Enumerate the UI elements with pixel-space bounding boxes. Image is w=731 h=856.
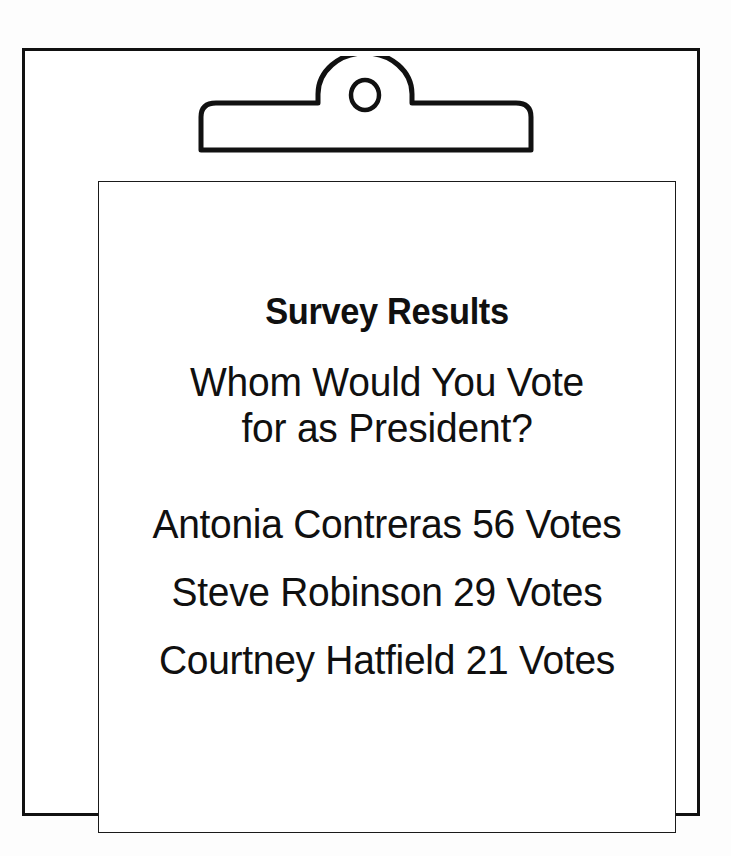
result-vote-count: 29 (453, 569, 496, 615)
clipboard-board: Survey Results Whom Would You Vote for a… (22, 48, 700, 816)
survey-question: Whom Would You Vote for as President? (113, 360, 660, 452)
result-vote-unit: Votes (525, 501, 621, 547)
page-title: Survey Results (119, 293, 655, 330)
result-candidate-name: Courtney Hatfield (159, 637, 455, 683)
result-candidate-name: Antonia Contreras (152, 501, 461, 547)
results-list: Antonia Contreras 56 Votes Steve Robinso… (99, 504, 675, 681)
result-row: Steve Robinson 29 Votes (113, 572, 660, 613)
result-vote-unit: Votes (506, 569, 602, 615)
result-vote-count: 21 (466, 637, 509, 683)
survey-question-line-1: Whom Would You Vote (113, 360, 660, 406)
result-row: Courtney Hatfield 21 Votes (113, 640, 660, 681)
paper-sheet: Survey Results Whom Would You Vote for a… (98, 181, 676, 833)
result-vote-unit: Votes (519, 637, 615, 683)
result-row: Antonia Contreras 56 Votes (113, 504, 660, 545)
result-vote-count: 56 (472, 501, 515, 547)
result-candidate-name: Steve Robinson (172, 569, 443, 615)
survey-question-line-2: for as President? (113, 406, 660, 452)
scan-surface: Survey Results Whom Would You Vote for a… (0, 0, 731, 856)
